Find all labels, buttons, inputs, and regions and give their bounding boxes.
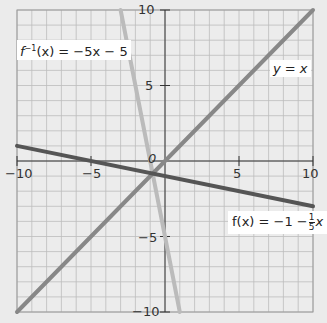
x-tick-10: 10 — [302, 167, 319, 181]
f-label-fraction: 15 — [309, 213, 315, 232]
y-tick-10: 10 — [138, 3, 155, 17]
origin-label: 0 — [148, 152, 156, 166]
x-tick-5: 5 — [233, 167, 241, 181]
f-label-den: 5 — [309, 223, 315, 232]
f-label: f(x) = −1 −15x — [228, 211, 327, 234]
finv-label: f−1(x) = −5x − 5 — [17, 40, 131, 60]
y-tick-m5: −5 — [138, 231, 157, 245]
finv-label-sup: −1 — [25, 44, 37, 53]
y-tick-m10: −10 — [132, 305, 159, 319]
yx-label: y = x — [270, 60, 311, 77]
y-tick-5: 5 — [145, 79, 153, 93]
x-tick-m5: −5 — [82, 167, 101, 181]
f-label-prefix: f(x) = −1 − — [232, 214, 308, 229]
f-label-x: x — [316, 214, 324, 229]
x-tick-m10: −10 — [5, 167, 32, 181]
finv-label-rest: (x) = −5x − 5 — [36, 44, 127, 59]
